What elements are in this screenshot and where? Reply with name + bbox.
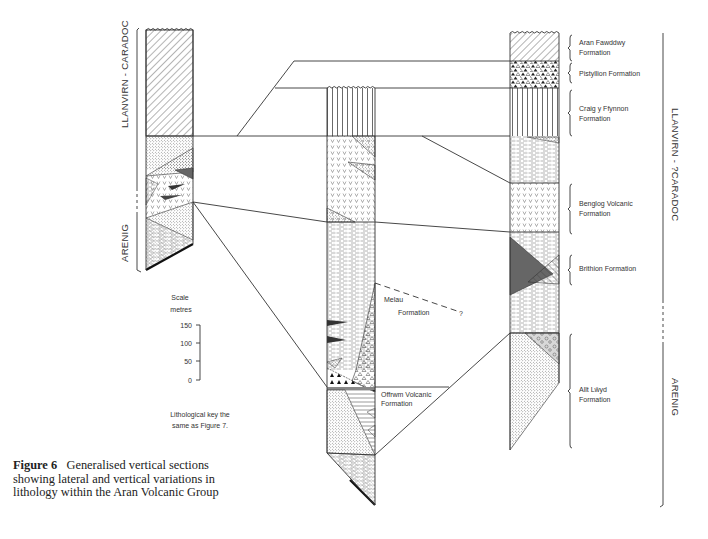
scale-unit: metres <box>170 306 192 313</box>
aran-fawddwy-label-1: Aran Fawddwy <box>579 39 626 47</box>
aran-fawddwy-label-2: Formation <box>579 49 611 56</box>
brithion-label: Brithion Formation <box>579 265 636 272</box>
figure-caption: Figure 6 Generalised vertical sections s… <box>13 459 253 500</box>
offrwm-label-2: Formation <box>381 400 413 407</box>
craig-y-ffynnon-label-2: Formation <box>579 115 611 122</box>
melau-label-2: Formation <box>398 309 430 316</box>
melau-query: ? <box>459 310 463 317</box>
scale-tick-150: 150 <box>180 322 192 329</box>
wavy-top-right <box>510 32 559 34</box>
figure-number: Figure 6 <box>13 458 57 472</box>
right-age-llanvirn-caradoc: LLANVIRN - ?CARADOC <box>670 108 681 221</box>
scale-tick-50: 50 <box>184 358 192 365</box>
left-section-column <box>146 29 193 271</box>
scale-bar: Scale metres 150 100 50 0 Lithological k… <box>170 294 230 430</box>
scale-title: Scale <box>171 294 189 301</box>
benglog-label-2: Formation <box>579 210 611 217</box>
benglog-label-1: Benglog Volcanic <box>579 200 633 208</box>
left-age-bar: LLANVIRN - CARADOC ARENIG <box>119 20 141 272</box>
allt-lwyd-label-2: Formation <box>579 396 611 403</box>
middle-section-column <box>327 87 375 506</box>
wavy-top-middle <box>327 87 375 89</box>
allt-lwyd-label-1: Allt Lŵyd <box>579 386 607 394</box>
key-note-2: same as Figure 7. <box>172 422 228 430</box>
left-age-llanvirn-caradoc: LLANVIRN - CARADOC <box>119 20 130 128</box>
right-age-arenig: ARENIG <box>670 378 681 416</box>
offrwm-label-1: Offrwm Volcanic <box>381 391 432 398</box>
right-section-column <box>510 32 559 451</box>
pistyllion-label: Pistyllion Formation <box>579 70 640 78</box>
craig-y-ffynnon-label-1: Craig y Ffynnon <box>579 105 629 113</box>
melau-label-1: Melau <box>384 296 403 303</box>
left-age-arenig: ARENIG <box>119 224 130 262</box>
right-formation-braces <box>568 35 572 448</box>
scale-tick-100: 100 <box>180 340 192 347</box>
right-age-bar: LLANVIRN - ?CARADOC ARENIG <box>660 33 681 507</box>
key-note-1: Lithological key the <box>170 411 230 419</box>
scale-tick-0: 0 <box>188 377 192 384</box>
